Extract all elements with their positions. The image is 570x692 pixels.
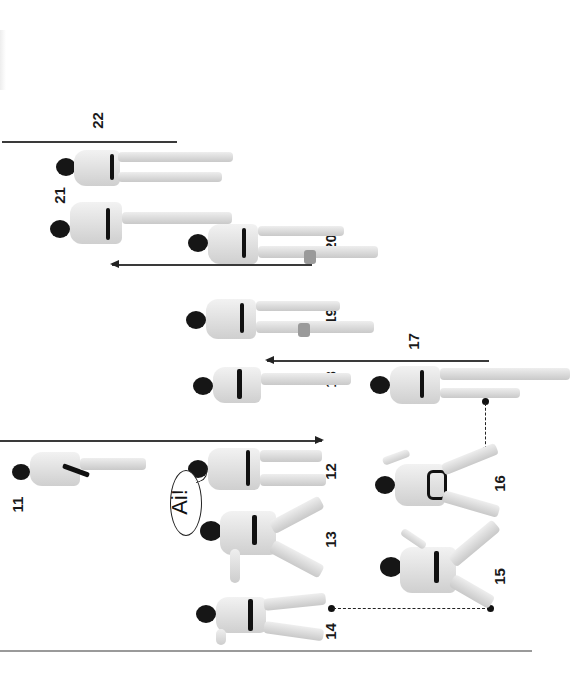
black-belt bbox=[246, 450, 250, 486]
leg bbox=[261, 373, 351, 385]
arm bbox=[216, 629, 226, 645]
head bbox=[375, 476, 395, 494]
step-number-11: 11 bbox=[10, 497, 25, 513]
foot bbox=[304, 250, 316, 264]
head bbox=[200, 521, 222, 541]
dashed-connector-16-17 bbox=[485, 403, 486, 449]
torso bbox=[400, 547, 456, 593]
leg bbox=[263, 593, 326, 611]
karateka-figure-step-15 bbox=[380, 525, 500, 605]
karateka-figure-step-19 bbox=[186, 297, 326, 341]
karateka-figure-step-20 bbox=[188, 222, 328, 266]
black-belt bbox=[106, 208, 110, 240]
leg bbox=[441, 490, 500, 518]
karateka-figure-step-21 bbox=[50, 200, 185, 246]
karateka-figure-step-11 bbox=[12, 448, 142, 488]
leg bbox=[441, 443, 499, 476]
torso bbox=[390, 366, 440, 404]
black-belt bbox=[434, 551, 439, 583]
black-belt bbox=[240, 303, 244, 333]
leg bbox=[440, 368, 570, 380]
head bbox=[186, 311, 206, 329]
leg bbox=[80, 458, 146, 470]
foot bbox=[298, 323, 310, 337]
leg bbox=[269, 496, 325, 535]
torso bbox=[70, 202, 122, 244]
karateka-figure-step-16 bbox=[375, 454, 505, 514]
page-rule bbox=[0, 650, 532, 652]
direction-arrow-step-12 bbox=[0, 440, 322, 442]
leg bbox=[256, 321, 374, 333]
head bbox=[380, 557, 402, 577]
karateka-figure-step-12 bbox=[188, 444, 318, 494]
torso bbox=[208, 224, 258, 264]
black-belt bbox=[248, 599, 253, 631]
karateka-figure-step-17 bbox=[370, 364, 505, 406]
torso bbox=[208, 448, 260, 490]
black-belt bbox=[420, 370, 424, 398]
leg bbox=[260, 474, 326, 486]
head bbox=[196, 605, 216, 623]
torso bbox=[206, 299, 256, 339]
black-belt bbox=[110, 154, 114, 180]
head bbox=[12, 464, 30, 480]
leg bbox=[258, 226, 344, 236]
black-belt bbox=[237, 369, 242, 399]
karateka-figure-step-22 bbox=[56, 148, 191, 188]
leg bbox=[448, 519, 501, 567]
leg bbox=[269, 540, 325, 579]
direction-arrow-step-17 bbox=[267, 360, 489, 362]
step-number-22: 22 bbox=[90, 112, 105, 129]
kiai-text: Ai! bbox=[169, 489, 191, 515]
head bbox=[188, 234, 208, 252]
black-belt bbox=[252, 515, 257, 545]
black-belt bbox=[242, 228, 246, 258]
page-edge-shadow bbox=[0, 30, 6, 90]
arm bbox=[230, 549, 240, 583]
karateka-figure-step-14 bbox=[196, 595, 326, 645]
leg bbox=[256, 301, 340, 311]
leg bbox=[118, 172, 222, 182]
leg bbox=[263, 621, 324, 641]
karateka-figure-step-13 bbox=[200, 505, 330, 585]
torso bbox=[216, 597, 266, 633]
step-22-line bbox=[2, 141, 177, 143]
leg bbox=[258, 246, 378, 258]
head bbox=[50, 220, 70, 238]
head bbox=[56, 158, 76, 176]
head bbox=[370, 376, 390, 394]
leg bbox=[440, 388, 520, 398]
karateka-figure-step-18 bbox=[193, 365, 313, 405]
leg bbox=[449, 574, 496, 609]
head bbox=[193, 377, 213, 395]
leg bbox=[118, 152, 233, 162]
step-number-17: 17 bbox=[406, 333, 421, 350]
dashed-connector-14-15 bbox=[333, 608, 490, 609]
torso bbox=[220, 511, 276, 555]
leg bbox=[260, 450, 322, 462]
